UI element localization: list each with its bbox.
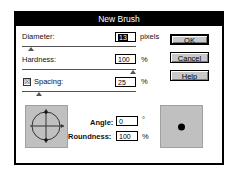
angle-label: Angle: — [90, 118, 113, 127]
spacing-checkbox[interactable]: ☒ — [23, 78, 31, 86]
roundness-unit: % — [142, 132, 149, 141]
diameter-unit: pixels — [140, 32, 159, 41]
roundness-label: Roundness: — [68, 132, 111, 141]
help-button[interactable]: Help — [170, 70, 209, 81]
brush-preview — [160, 105, 203, 148]
hardness-label: Hardness: — [22, 55, 56, 64]
spacing-unit: % — [141, 77, 148, 86]
ok-button[interactable]: OK — [170, 34, 209, 45]
brush-dot-icon — [161, 106, 202, 147]
brush-shape-crosshair-icon — [26, 106, 67, 147]
hardness-unit: % — [141, 55, 148, 64]
spacing-slider-thumb[interactable] — [36, 92, 42, 96]
spacing-input[interactable]: 25 — [115, 77, 136, 87]
diameter-label: Diameter: — [22, 32, 55, 41]
new-brush-dialog: New Brush Diameter: 13 pixels Hardness: … — [14, 11, 224, 165]
roundness-input[interactable]: 100 — [116, 131, 138, 141]
angle-input[interactable]: 0 — [116, 116, 138, 126]
diameter-slider-thumb[interactable] — [28, 47, 34, 51]
diameter-slider-track[interactable] — [22, 46, 136, 47]
dialog-title: New Brush — [16, 13, 222, 26]
cancel-button[interactable]: Cancel — [170, 52, 209, 63]
angle-roundness-preview[interactable] — [25, 105, 68, 148]
diameter-value: 13 — [118, 34, 128, 41]
spacing-label[interactable]: Spacing: — [34, 77, 63, 86]
hardness-slider-thumb[interactable] — [130, 70, 136, 74]
hardness-slider-track[interactable] — [22, 69, 136, 70]
angle-unit: ° — [142, 115, 145, 124]
hardness-input[interactable]: 100 — [115, 54, 136, 64]
diameter-input[interactable]: 13 — [115, 32, 136, 42]
